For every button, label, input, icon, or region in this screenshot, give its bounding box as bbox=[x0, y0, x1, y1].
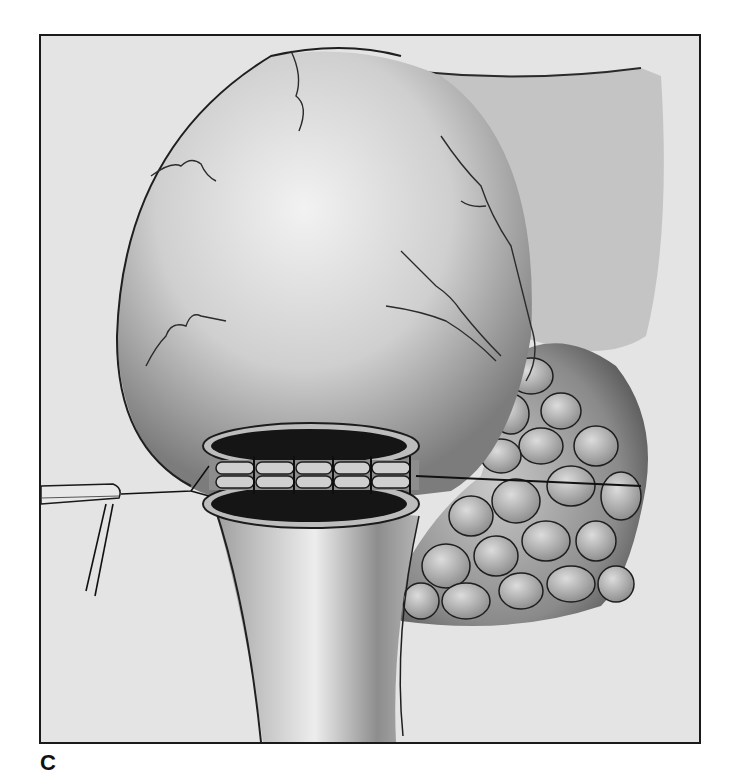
illustration-frame bbox=[39, 34, 701, 744]
needle-holder-icon bbox=[41, 484, 120, 596]
surgical-illustration bbox=[41, 36, 699, 742]
panel-label: C bbox=[40, 752, 56, 774]
incision bbox=[203, 423, 419, 528]
medical-illustration-figure: C bbox=[0, 0, 732, 781]
